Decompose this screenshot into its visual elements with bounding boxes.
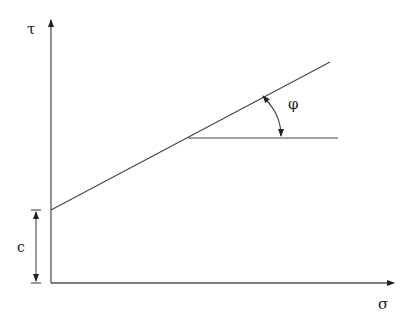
- y-axis-label: τ: [27, 22, 35, 37]
- x-axis-label: σ: [378, 297, 388, 312]
- angle-label: φ: [288, 97, 299, 112]
- angle-arc-start-arrow: [263, 96, 270, 104]
- failure-envelope-line: [51, 62, 330, 210]
- angle-arc: [264, 98, 281, 136]
- diagram-canvas: [0, 0, 413, 324]
- intercept-label: c: [17, 240, 25, 254]
